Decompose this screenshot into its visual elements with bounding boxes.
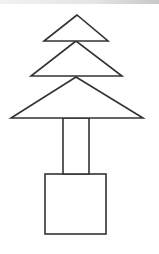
diagram-canvas <box>0 0 159 254</box>
middle-triangle <box>31 41 122 76</box>
tree-drawing <box>0 0 159 254</box>
base-square <box>45 174 106 234</box>
top-triangle <box>44 15 108 41</box>
trunk-rectangle <box>63 118 89 174</box>
bottom-triangle <box>11 77 143 118</box>
